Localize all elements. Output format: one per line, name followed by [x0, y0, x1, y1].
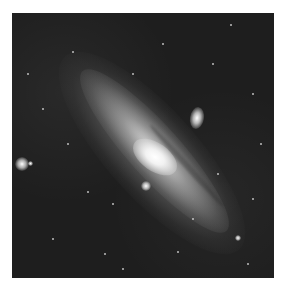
- star: [67, 143, 69, 145]
- star: [72, 51, 74, 53]
- star: [252, 198, 254, 200]
- star: [122, 268, 124, 270]
- star: [104, 253, 106, 255]
- star: [177, 251, 179, 253]
- star: [27, 73, 29, 75]
- star: [162, 43, 164, 45]
- star: [252, 93, 254, 95]
- star: [235, 235, 241, 241]
- star: [132, 73, 134, 75]
- star: [260, 143, 262, 145]
- galaxy-photo: [12, 13, 274, 278]
- star: [247, 263, 249, 265]
- star: [217, 173, 219, 175]
- star: [212, 63, 214, 65]
- bright-star-center: [141, 181, 151, 191]
- star: [28, 161, 33, 166]
- star: [42, 108, 44, 110]
- star: [230, 24, 232, 26]
- bright-star-left: [15, 157, 29, 171]
- star: [192, 218, 194, 220]
- star: [112, 203, 114, 205]
- star: [52, 238, 54, 240]
- star: [87, 191, 89, 193]
